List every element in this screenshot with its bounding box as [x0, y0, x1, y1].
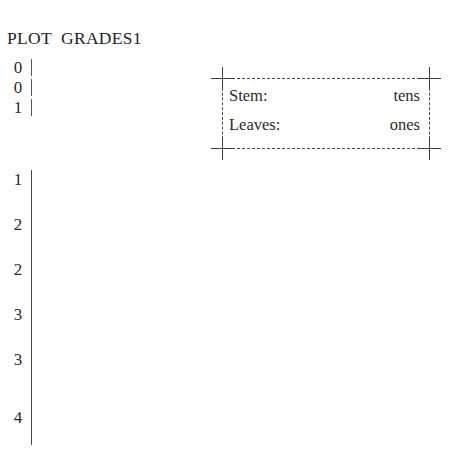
stem-value: 2	[11, 215, 25, 235]
stem-axis	[31, 170, 32, 445]
legend-corner-mark-bottom-left	[211, 137, 234, 160]
stem-value: 2	[11, 260, 25, 280]
stem-value: 1	[11, 170, 25, 190]
legend-leaves-label: Leaves:	[229, 112, 280, 138]
legend-box: Stem: tens Leaves: ones	[222, 78, 430, 149]
stem-divider	[31, 59, 32, 76]
legend-stem-label: Stem:	[229, 83, 268, 109]
stem-value: 4	[11, 408, 25, 428]
legend-corner-mark-bottom-right	[418, 137, 441, 160]
stem-value: 3	[11, 305, 25, 325]
stem-divider	[31, 79, 32, 96]
stem-value: 0	[11, 58, 25, 78]
stem-value: 3	[11, 350, 25, 370]
legend-row-stem: Stem: tens	[223, 83, 429, 109]
stem-divider	[31, 99, 32, 116]
legend-corner-mark-top-right	[418, 67, 441, 90]
legend-row-leaves: Leaves: ones	[223, 112, 429, 138]
stem-value: 0	[11, 78, 25, 98]
legend-stem-value: tens	[393, 83, 420, 109]
legend-leaves-value: ones	[390, 112, 420, 138]
legend-corner-mark-top-left	[211, 67, 234, 90]
stem-value: 1	[11, 98, 25, 118]
